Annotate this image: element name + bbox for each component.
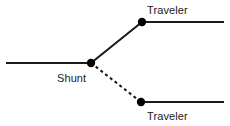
- traveler-bottom-node: [137, 98, 145, 106]
- traveler-top-node: [138, 18, 146, 26]
- traveler-bottom-label: Traveler: [147, 110, 188, 122]
- shunt-node: [87, 59, 95, 67]
- wiring-diagram-canvas: [0, 0, 230, 126]
- shunt-to-traveler-bottom-wire: [91, 63, 141, 102]
- traveler-top-label: Traveler: [147, 4, 188, 16]
- shunt-label: Shunt: [57, 72, 86, 84]
- wiring-diagram: Traveler Shunt Traveler: [0, 0, 230, 126]
- shunt-to-traveler-top-wire: [91, 22, 142, 63]
